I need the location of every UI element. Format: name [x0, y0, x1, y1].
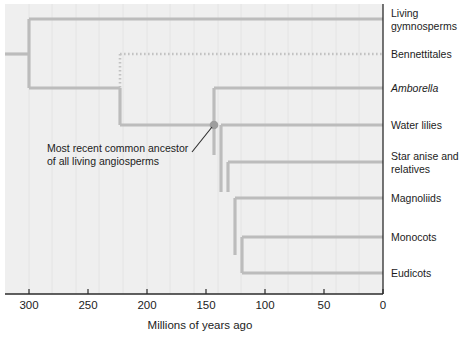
- x-tick-300: 300: [19, 299, 38, 311]
- x-tick-100: 100: [255, 299, 274, 311]
- tip-label-eudicots: Eudicots: [391, 267, 431, 279]
- x-tick-0: 0: [380, 299, 386, 311]
- tip-label-star-anise-line1: Star anise and: [391, 150, 459, 162]
- x-tick-250: 250: [78, 299, 97, 311]
- x-tick-50: 50: [318, 299, 331, 311]
- tip-label-bennettitales: Bennettitales: [391, 48, 452, 60]
- annotation-line-2: of all living angiosperms: [47, 155, 159, 167]
- x-tick-200: 200: [137, 299, 156, 311]
- annotation-line-1: Most recent common ancestor: [47, 142, 189, 154]
- tip-label-water-lilies: Water lilies: [391, 119, 442, 131]
- x-axis-title: Millions of years ago: [148, 319, 253, 331]
- tip-label-amborella: Amborella: [390, 82, 438, 94]
- tip-label-magnoliids: Magnoliids: [391, 192, 441, 204]
- phylogenetic-tree-figure: 300 250 200 150 100 50 0 Millions of yea…: [0, 0, 466, 340]
- tip-label-monocots: Monocots: [391, 231, 437, 243]
- tip-label-living-gymnosperms-line1: Living: [391, 7, 419, 19]
- x-tick-150: 150: [196, 299, 215, 311]
- tip-label-star-anise-line2: relatives: [391, 163, 430, 175]
- tip-label-living-gymnosperms-line2: gymnosperms: [391, 20, 457, 32]
